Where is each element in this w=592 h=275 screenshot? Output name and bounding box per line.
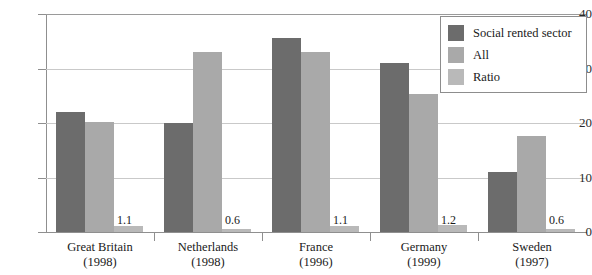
legend-swatch [448, 69, 464, 85]
legend-swatch [448, 25, 464, 41]
category-label: Great Britain(1998) [46, 240, 154, 270]
x-axis-line [46, 232, 587, 233]
ratio-value-label: 1.1 [333, 214, 348, 226]
bar-chart: 010203040 1.10.61.11.20.6 Great Britain(… [0, 0, 592, 275]
ratio-value-label: 1.2 [441, 214, 456, 226]
category-label: Sweden(1997) [478, 240, 586, 270]
category-year: (1998) [46, 255, 154, 270]
legend-label: All [473, 49, 489, 62]
category-year: (1996) [262, 255, 370, 270]
bars [56, 14, 143, 232]
y-tick-mark [38, 232, 46, 233]
legend-item[interactable]: All [448, 45, 579, 65]
y-tick-mark [38, 14, 46, 15]
bar-group: 0.6 [154, 14, 262, 232]
category-year: (1997) [478, 255, 586, 270]
bar [222, 229, 251, 232]
y-tick-mark [38, 178, 46, 179]
bar-group: 1.1 [262, 14, 370, 232]
category-name: Sweden [512, 240, 552, 254]
category-year: (1998) [154, 255, 262, 270]
legend-label: Social rented sector [473, 27, 572, 40]
ratio-value-label: 1.1 [117, 214, 132, 226]
bar [301, 52, 330, 232]
bar-group: 1.1 [46, 14, 154, 232]
y-tick-mark [38, 69, 46, 70]
category-label: Germany(1999) [370, 240, 478, 270]
category-label: Netherlands(1998) [154, 240, 262, 270]
category-name: Great Britain [67, 240, 133, 254]
legend-label: Ratio [473, 71, 500, 84]
category-name: France [299, 240, 333, 254]
bar [272, 38, 301, 232]
category-label: France(1996) [262, 240, 370, 270]
bar [409, 94, 438, 232]
category-name: Netherlands [178, 240, 238, 254]
category-name: Germany [401, 240, 448, 254]
bars [272, 14, 359, 232]
bar [56, 112, 85, 232]
bar [193, 52, 222, 232]
bar [546, 229, 575, 232]
bar [517, 136, 546, 232]
bars [164, 14, 251, 232]
bar [380, 63, 409, 232]
legend: Social rented sectorAllRatio [440, 16, 587, 93]
category-year: (1999) [370, 255, 478, 270]
bar [488, 172, 517, 232]
ratio-value-label: 0.6 [549, 214, 564, 226]
legend-swatch [448, 47, 464, 63]
ratio-value-label: 0.6 [225, 214, 240, 226]
legend-item[interactable]: Social rented sector [448, 23, 579, 43]
legend-item[interactable]: Ratio [448, 67, 579, 87]
bar [164, 123, 193, 232]
bar [85, 122, 114, 232]
y-tick-mark [38, 123, 46, 124]
